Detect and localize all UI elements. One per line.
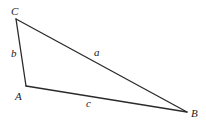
side-c-label: c: [86, 97, 91, 109]
side-a-label: a: [94, 46, 100, 58]
side-b: [16, 19, 26, 86]
vertex-c-label: C: [11, 5, 19, 17]
vertex-a-label: A: [14, 90, 22, 102]
vertex-b-label: B: [191, 107, 198, 119]
triangle-diagram: C A B b a c: [0, 0, 206, 123]
side-b-label: b: [11, 47, 17, 59]
